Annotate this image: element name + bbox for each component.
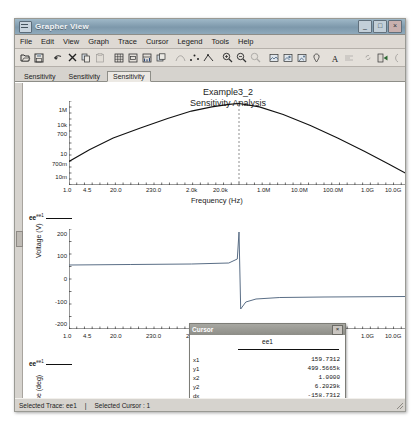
menu-graph[interactable]: Graph [87, 36, 110, 47]
magnitude-xtick-8: 100.0M [323, 187, 343, 193]
peak-icon[interactable] [201, 51, 215, 65]
open-icon[interactable] [18, 51, 32, 65]
phase-xtick-10: 10.0G [385, 333, 401, 339]
phase-xtick-9: 1.0G [361, 333, 374, 339]
magnitude-xtick-10: 10.0G [385, 187, 401, 193]
image-copy-icon[interactable] [281, 51, 295, 65]
zoom-out-icon[interactable] [234, 51, 248, 65]
magnitude-xtick-5: 20.0k [213, 187, 228, 193]
cursor-column-header: ee1 [190, 338, 345, 345]
minimize-button[interactable]: _ [358, 20, 372, 33]
menu-file[interactable]: File [19, 36, 33, 47]
tab-sensitivity-1[interactable]: Sensitivity [18, 71, 62, 81]
status-selected-trace: Selected Trace: ee1 [19, 402, 77, 409]
link-icon[interactable] [361, 51, 375, 65]
phase-y-axis-title: Phase (deg) [35, 375, 42, 398]
undo-icon[interactable] [51, 51, 65, 65]
cursor-value-y2: 6.2029k [223, 383, 345, 390]
cursor-dialog-body: ee1 x1 159.7312 y1 499.5665k x2 [190, 335, 345, 398]
legend-icon[interactable] [126, 51, 140, 65]
phase-ytick-3: -100 [39, 299, 67, 305]
close-button[interactable]: × [388, 20, 402, 33]
phase-ytick-1: 100 [39, 253, 67, 259]
magnitude-xtick-4: 2.0k [186, 187, 197, 193]
menu-view[interactable]: View [62, 36, 80, 47]
zoom-fit-icon[interactable] [248, 51, 262, 65]
copy-icon[interactable] [79, 51, 93, 65]
cursor-table-icon[interactable] [140, 51, 154, 65]
cursor-dialog-close-button[interactable]: × [332, 325, 343, 335]
cursor-key-y1: y1 [190, 366, 223, 372]
cursor-row-y2[interactable]: y2 6.2029k [190, 382, 345, 391]
more-icon[interactable] [389, 51, 403, 65]
cursor-row-y1[interactable]: y1 499.5665k [190, 364, 345, 373]
phase-ytick-2: 0 [39, 276, 67, 282]
cursor-header-rule [238, 349, 339, 350]
magnitude-ytick-5: 10m [37, 174, 67, 180]
save-icon[interactable] [32, 51, 46, 65]
cursor-key-y2: y2 [190, 384, 223, 390]
vertical-scrollbar[interactable] [15, 83, 23, 398]
scrollbar-thumb[interactable] [16, 231, 23, 247]
phase-xtick-3: 230.0 [146, 333, 161, 339]
maximize-button[interactable]: □ [373, 20, 387, 33]
phase-legend-sup: ee1 [36, 359, 44, 364]
magnitude-legend-line [46, 218, 72, 219]
delete-icon[interactable] [65, 51, 79, 65]
menu-cursor[interactable]: Cursor [145, 36, 170, 47]
toolbar: A [15, 49, 405, 67]
cursor-value-x1: 159.7312 [223, 356, 345, 363]
cursor-key-x1: x1 [190, 357, 223, 363]
status-separator: | [85, 402, 87, 409]
magnitude-plot[interactable] [69, 101, 405, 185]
magnitude-x-axis-title: Frequency (Hz) [191, 196, 243, 205]
curve-icon[interactable] [173, 51, 187, 65]
magnitude-legend-sup: ee1 [36, 213, 44, 218]
phase-plot[interactable] [69, 229, 405, 329]
image-icon[interactable] [267, 51, 281, 65]
chart-title-line1: Example3_2 [143, 87, 313, 98]
magnitude-legend[interactable]: eeee1 [29, 213, 72, 221]
cursor-row-dx[interactable]: dx -158.7312 [190, 391, 345, 398]
cursor-dialog-titlebar[interactable]: Cursor × [190, 324, 345, 335]
scatter-icon[interactable] [187, 51, 201, 65]
align-icon[interactable] [342, 51, 356, 65]
image-save-icon[interactable] [295, 51, 309, 65]
paste-icon[interactable] [93, 51, 107, 65]
phase-xtick-2: 20.0 [110, 333, 122, 339]
tab-sensitivity-2[interactable]: Sensitivity [63, 71, 107, 81]
cursor-value-y1: 499.5665k [223, 365, 345, 372]
cursor-key-dx: dx [190, 393, 223, 399]
menu-trace[interactable]: Trace [117, 36, 138, 47]
menu-edit[interactable]: Edit [40, 36, 55, 47]
magnitude-ytick-2: 700 [45, 131, 67, 137]
window-title: Grapher View [35, 22, 358, 31]
marker-icon[interactable] [309, 51, 323, 65]
phase-legend-line [46, 364, 72, 365]
menu-legend[interactable]: Legend [176, 36, 203, 47]
window-controls: _ □ × [358, 20, 403, 33]
cursor-dialog[interactable]: Cursor × ee1 x1 159.7312 y1 499.5665k [189, 323, 346, 398]
svg-text:A: A [332, 53, 339, 63]
magnitude-ytick-4: 700m [37, 161, 67, 167]
menu-tools[interactable]: Tools [210, 36, 230, 47]
zoom-in-icon[interactable] [220, 51, 234, 65]
menu-help[interactable]: Help [237, 36, 254, 47]
cursor-row-x1[interactable]: x1 159.7312 [190, 355, 345, 364]
magnitude-xtick-9: 1.0G [361, 187, 374, 193]
cursor-value-dx: -158.7312 [223, 392, 345, 398]
magnitude-xtick-7: 10.0M [291, 187, 308, 193]
magnitude-xtick-3: 230.0 [146, 187, 161, 193]
magnitude-xtick-2: 20.0 [110, 187, 122, 193]
cursor-row-x2[interactable]: x2 1.0000 [190, 373, 345, 382]
text-icon[interactable]: A [328, 51, 342, 65]
status-selected-cursor: Selected Cursor : 1 [95, 402, 151, 409]
window-titlebar[interactable]: Grapher View _ □ × [15, 19, 405, 35]
run-icon[interactable] [375, 51, 389, 65]
phase-legend[interactable]: eeee1 [29, 359, 72, 367]
resize-grip[interactable] [395, 401, 404, 410]
grid-icon[interactable] [112, 51, 126, 65]
duplicate-icon[interactable] [154, 51, 168, 65]
tab-sensitivity-3[interactable]: Sensitivity [107, 71, 151, 82]
magnitude-xtick-6: 1.0M [257, 187, 270, 193]
